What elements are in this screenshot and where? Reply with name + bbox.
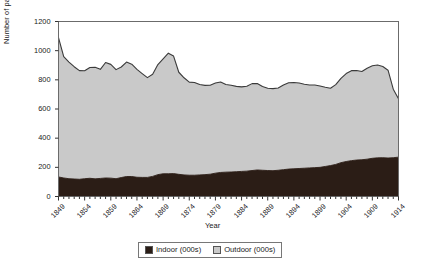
chart-legend: Indoor (000s) Outdoor (000s) <box>138 242 282 258</box>
legend-swatch-indoor <box>145 246 153 254</box>
pauperism-area-chart: Number of paupers (1000s) 02004006008001… <box>0 0 421 266</box>
y-tick-label: 600 <box>21 104 51 113</box>
y-tick-label: 400 <box>21 133 51 142</box>
legend-swatch-outdoor <box>213 246 221 254</box>
y-tick-label: 0 <box>21 192 51 201</box>
x-axis-title: Year <box>205 221 220 230</box>
y-tick-label: 800 <box>21 75 51 84</box>
y-tick-label: 200 <box>21 162 51 171</box>
legend-item-indoor: Indoor (000s) <box>145 244 201 255</box>
legend-item-outdoor: Outdoor (000s) <box>213 244 275 255</box>
y-tick-label: 1000 <box>21 46 51 55</box>
legend-label-outdoor: Outdoor (000s) <box>224 244 275 255</box>
legend-label-indoor: Indoor (000s) <box>156 244 201 255</box>
y-tick-label: 1200 <box>21 17 51 26</box>
